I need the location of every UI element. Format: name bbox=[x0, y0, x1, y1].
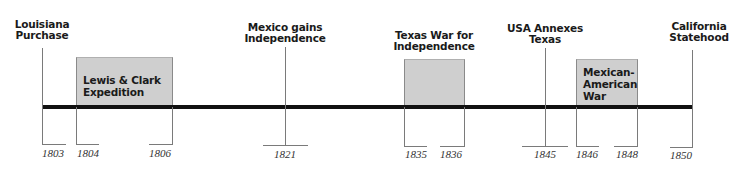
event-label-usa-annexes-texas: USA Annexes Texas bbox=[500, 23, 590, 45]
span-box-texas-war bbox=[404, 59, 465, 107]
marker-tick-1806 bbox=[149, 144, 173, 145]
year-label-1845: 1845 bbox=[525, 148, 565, 160]
marker-tick-1803 bbox=[42, 144, 66, 145]
marker-tick-1848 bbox=[614, 146, 638, 147]
marker-tick-1846 bbox=[576, 146, 599, 147]
year-label-1806: 1806 bbox=[140, 147, 180, 159]
marker-line-1821 bbox=[285, 47, 286, 145]
timeline-diagram: Louisiana Purchase 1803 Lewis & Clark Ex… bbox=[0, 0, 735, 173]
year-label-1848: 1848 bbox=[607, 148, 647, 160]
marker-tick-1836 bbox=[440, 146, 465, 147]
marker-line-1850 bbox=[692, 50, 693, 147]
span-label-lewis-clark: Lewis & Clark Expedition bbox=[83, 74, 171, 98]
year-label-1803: 1803 bbox=[33, 147, 73, 159]
span-label-texas-war: Texas War for Independence bbox=[384, 30, 484, 52]
year-label-1846: 1846 bbox=[567, 148, 607, 160]
marker-line-1836 bbox=[464, 107, 465, 146]
year-label-1821: 1821 bbox=[265, 148, 305, 160]
span-label-mexican-american-war: Mexican- American War bbox=[583, 66, 643, 102]
event-label-mexico-independence: Mexico gains Independence bbox=[240, 22, 330, 44]
year-label-1804: 1804 bbox=[68, 147, 108, 159]
marker-line-1803 bbox=[42, 48, 43, 144]
marker-line-1846 bbox=[576, 107, 577, 146]
year-label-1836: 1836 bbox=[431, 148, 471, 160]
year-label-1835: 1835 bbox=[396, 148, 436, 160]
marker-line-1848 bbox=[637, 107, 638, 146]
marker-tick-1850 bbox=[670, 147, 693, 148]
marker-line-1845 bbox=[545, 48, 546, 146]
event-label-louisiana-purchase: Louisiana Purchase bbox=[10, 19, 74, 41]
marker-tick-1845 bbox=[522, 146, 568, 147]
marker-line-1806 bbox=[172, 107, 173, 144]
marker-line-1835 bbox=[404, 107, 405, 146]
marker-tick-1821 bbox=[263, 145, 308, 146]
event-label-california-statehood: California Statehood bbox=[666, 21, 732, 43]
marker-line-1804 bbox=[76, 107, 77, 144]
marker-tick-1804 bbox=[76, 144, 99, 145]
timeline-axis bbox=[42, 105, 693, 109]
year-label-1850: 1850 bbox=[661, 149, 701, 161]
marker-tick-1835 bbox=[404, 146, 427, 147]
